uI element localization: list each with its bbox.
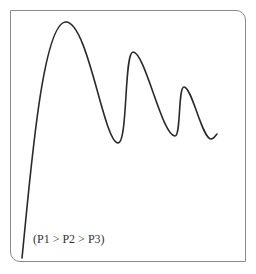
peak-order-label: (P1 > P2 > P3) xyxy=(33,232,105,247)
curve-line xyxy=(22,22,217,258)
